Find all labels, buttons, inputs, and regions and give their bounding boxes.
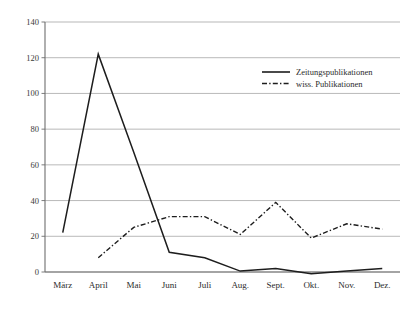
- x-tick-label-9: Dez.: [374, 280, 391, 290]
- legend-label-0: Zeitungspublikationen: [296, 67, 373, 77]
- x-axis-tick-labels: MärzAprilMaiJuniJuliAug.Sept.Okt.Nov.Dez…: [53, 280, 390, 290]
- legend-label-1: wiss. Publikationen: [296, 79, 363, 89]
- series-line-1: [98, 202, 382, 257]
- x-tick-label-2: Mai: [127, 280, 142, 290]
- y-axis-tick-labels: 020406080100120140: [26, 17, 39, 277]
- x-tick-label-7: Okt.: [303, 280, 319, 290]
- line-chart: 020406080100120140 MärzAprilMaiJuniJuliA…: [0, 0, 410, 309]
- x-tick-label-3: Juni: [162, 280, 178, 290]
- x-tick-label-1: April: [89, 280, 108, 290]
- y-tick-label-40: 40: [31, 196, 40, 206]
- y-tick-label-20: 20: [31, 231, 40, 241]
- x-tick-label-8: Nov.: [338, 280, 355, 290]
- y-tick-label-100: 100: [26, 88, 39, 98]
- y-tick-label-60: 60: [31, 160, 40, 170]
- chart-canvas: 020406080100120140 MärzAprilMaiJuniJuliA…: [0, 0, 410, 309]
- y-tick-label-120: 120: [26, 53, 39, 63]
- chart-legend: Zeitungspublikationenwiss. Publikationen: [262, 67, 373, 89]
- x-tick-label-5: Aug.: [231, 280, 249, 290]
- y-tick-label-0: 0: [35, 267, 39, 277]
- gridlines: [45, 22, 400, 272]
- y-tick-label-80: 80: [31, 124, 40, 134]
- x-tick-label-0: März: [53, 280, 72, 290]
- x-tick-label-6: Sept.: [267, 280, 285, 290]
- x-tick-label-4: Juli: [198, 280, 212, 290]
- y-tick-label-140: 140: [26, 17, 39, 27]
